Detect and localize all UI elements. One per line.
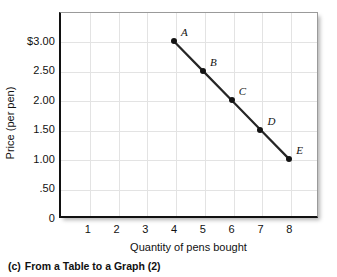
gridline-vertical (147, 13, 148, 216)
figure-from-table-to-graph: 0.501.001.502.002.50$3.00 12345678 Price… (0, 0, 337, 277)
x-axis-tick-label: 8 (277, 224, 301, 235)
x-axis-tick-label: 5 (191, 224, 215, 235)
caption-tag: (c) (8, 260, 21, 272)
x-axis-tick-label: 4 (162, 224, 186, 235)
gridline-horizontal (61, 160, 317, 161)
y-axis-title: Price (per pen) (4, 68, 16, 178)
gridline-horizontal (61, 72, 317, 73)
y-axis-tick-label: 2.00 (33, 95, 55, 106)
gridline-vertical (234, 13, 235, 216)
y-axis-tick-label: 1.50 (33, 124, 55, 135)
gridline-horizontal (61, 42, 317, 43)
gridline-vertical (119, 13, 120, 216)
gridline-vertical (262, 13, 263, 216)
x-axis-tick-label: 6 (220, 224, 244, 235)
gridline-horizontal (61, 101, 317, 102)
x-axis-tick-label: 1 (76, 224, 100, 235)
y-axis-tick-label: 0 (49, 213, 55, 224)
gridline-vertical (176, 13, 177, 216)
gridline-vertical (205, 13, 206, 216)
y-axis-tick-label: 2.50 (33, 65, 55, 76)
caption-text: From a Table to a Graph (2) (25, 260, 161, 272)
figure-caption: (c)From a Table to a Graph (2) (8, 260, 161, 272)
y-axis-tick-label: 1.00 (33, 154, 55, 165)
gridline-vertical (291, 13, 292, 216)
plot-area (59, 12, 318, 218)
gridline-horizontal (61, 131, 317, 132)
gridline-vertical (90, 13, 91, 216)
y-axis-tick-label: $3.00 (27, 36, 55, 47)
x-axis-tick-label: 3 (133, 224, 157, 235)
y-axis-tick-label: .50 (39, 183, 55, 194)
x-axis-tick-label: 2 (105, 224, 129, 235)
x-axis-tick-label: 7 (248, 224, 272, 235)
x-axis-title: Quantity of pens bought (59, 241, 318, 253)
gridline-horizontal (61, 190, 317, 191)
